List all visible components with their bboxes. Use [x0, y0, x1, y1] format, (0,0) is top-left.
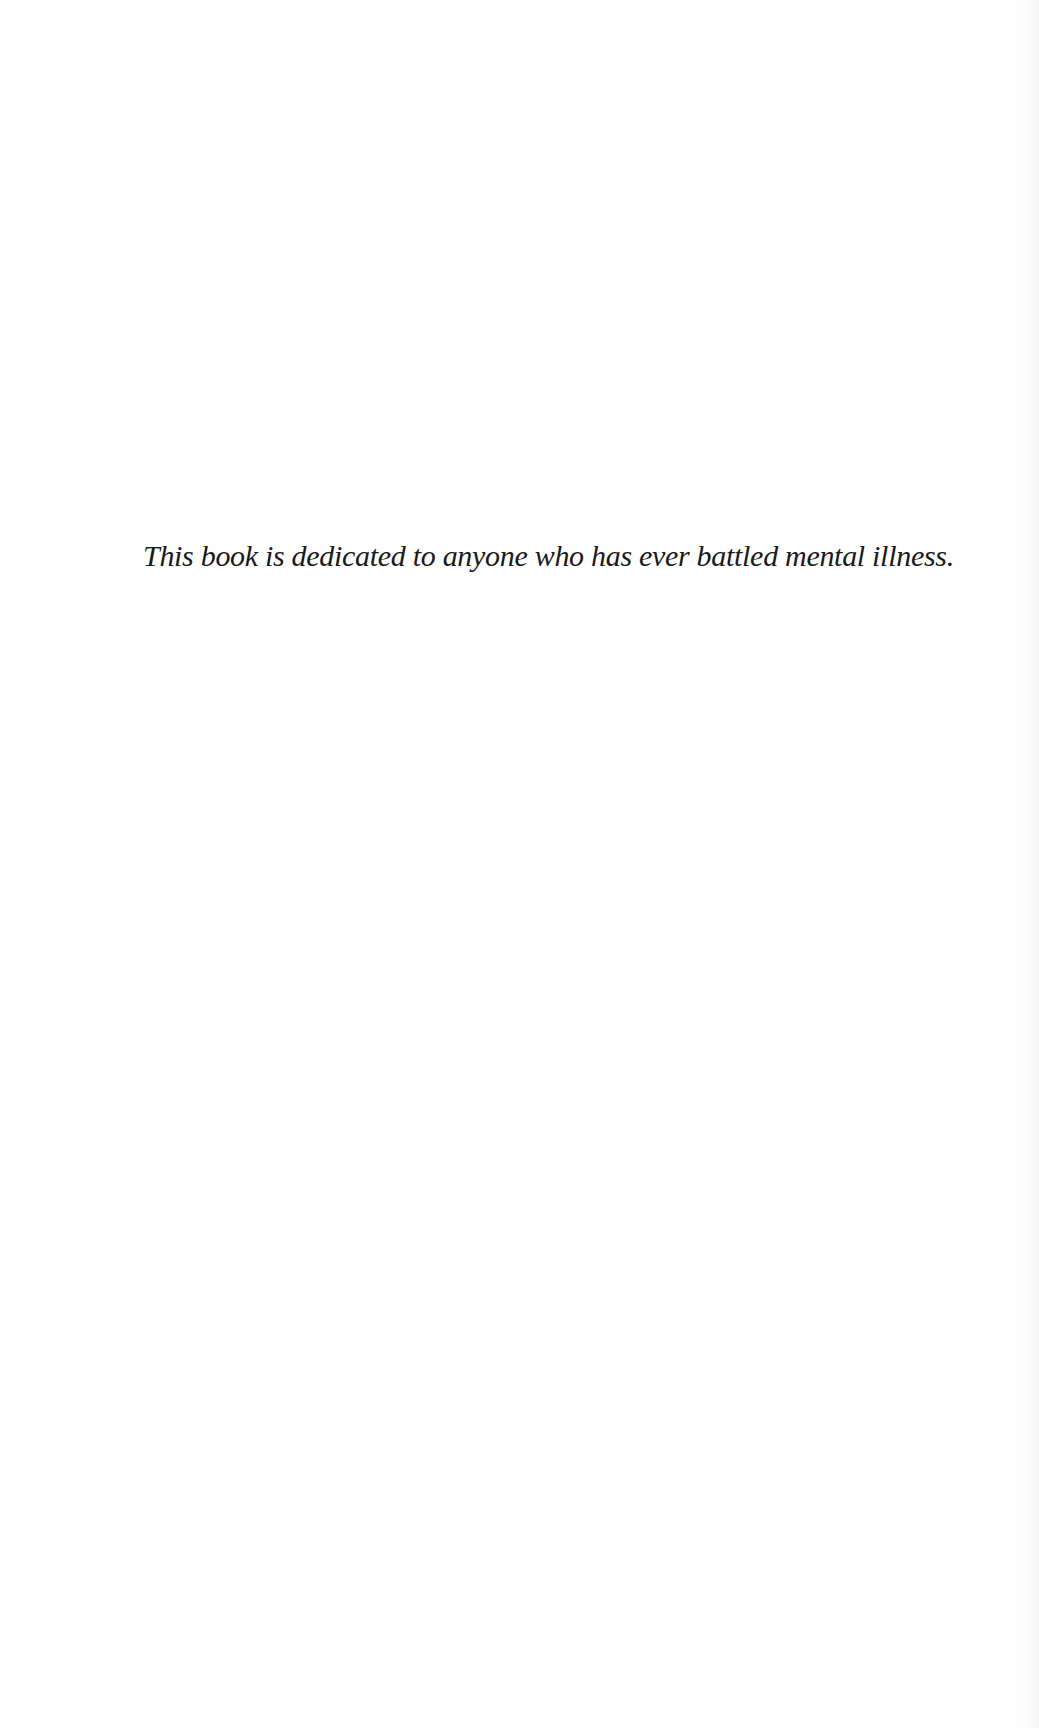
dedication-text: This book is dedicated to anyone who has… — [143, 538, 863, 574]
page-edge-shadow — [1021, 0, 1039, 1728]
book-page: This book is dedicated to anyone who has… — [0, 0, 1039, 1728]
